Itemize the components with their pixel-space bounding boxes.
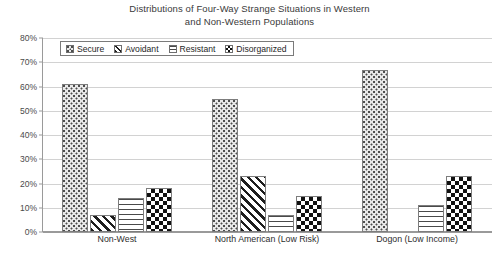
y-axis-tick-label: 30% (0, 154, 37, 164)
bar-group (192, 38, 342, 232)
bar-avoidant-0 (90, 215, 116, 232)
gridline (43, 232, 492, 233)
y-axis-tick-label: 40% (0, 130, 37, 140)
y-axis-tick-label: 60% (0, 82, 37, 92)
legend-swatch-checkerboard-icon (225, 45, 233, 53)
legend-item-avoidant[interactable]: Avoidant (114, 44, 158, 54)
chart-title-line-1: Distributions of Four-Way Strange Situat… (0, 3, 499, 16)
bar-group (342, 38, 492, 232)
bar-groups (42, 38, 492, 232)
bar-resistant-0 (118, 198, 144, 232)
chart-title: Distributions of Four-Way Strange Situat… (0, 3, 499, 28)
bar-chart: Distributions of Four-Way Strange Situat… (0, 0, 499, 255)
chart-legend: SecureAvoidantResistantDisorganized (60, 41, 294, 56)
legend-swatch-horizontal-icon (169, 45, 177, 53)
legend-item-resistant[interactable]: Resistant (169, 44, 216, 54)
bar-secure-1 (212, 99, 238, 232)
x-axis-labels: Non-WestNorth American (Low Risk)Dogon (… (42, 234, 492, 252)
legend-swatch-diagonal-icon (114, 45, 122, 53)
y-axis-tick-label: 0% (0, 227, 37, 237)
legend-item-secure[interactable]: Secure (66, 44, 104, 54)
legend-item-label: Secure (77, 44, 104, 54)
legend-item-disorganized[interactable]: Disorganized (225, 44, 286, 54)
bar-disorganized-2 (446, 176, 472, 232)
bar-disorganized-1 (296, 196, 322, 232)
y-axis-tick-label: 20% (0, 179, 37, 189)
bar-disorganized-0 (146, 188, 172, 232)
y-axis-tick-label: 10% (0, 203, 37, 213)
bar-group (42, 38, 192, 232)
bar-avoidant-1 (240, 176, 266, 232)
legend-item-label: Resistant (180, 44, 216, 54)
x-axis-label: Non-West (98, 234, 137, 244)
y-axis-tick-label: 70% (0, 57, 37, 67)
bar-secure-2 (362, 70, 388, 232)
legend-swatch-dotted-icon (66, 45, 74, 53)
bar-resistant-2 (418, 205, 444, 232)
bar-secure-0 (62, 84, 88, 232)
chart-title-line-2: and Non-Western Populations (0, 16, 499, 29)
y-axis-tick-label: 50% (0, 106, 37, 116)
legend-item-label: Avoidant (125, 44, 158, 54)
x-axis-label: Dogon (Low Income) (376, 234, 458, 244)
x-axis-label: North American (Low Risk) (215, 234, 320, 244)
y-axis-tick-label: 80% (0, 33, 37, 43)
legend-item-label: Disorganized (236, 44, 286, 54)
bar-resistant-1 (268, 215, 294, 232)
